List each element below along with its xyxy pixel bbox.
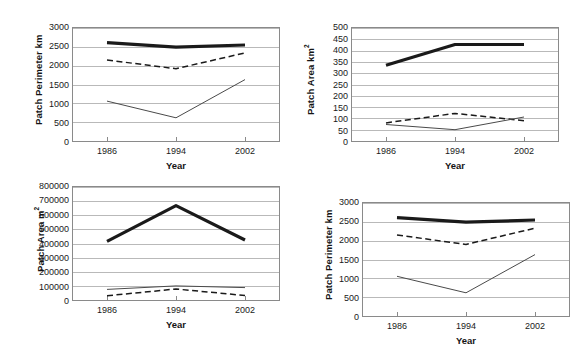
y-tick-label: 1000 [339,274,359,283]
y-tick-label: 800000 [39,182,69,191]
series-line-thick-solid [397,218,535,223]
x-tick-label: 2002 [525,322,545,331]
y-tick-label: 1500 [339,255,359,264]
series-line-thick-solid [386,45,524,66]
y-tick-label: 1000 [49,99,69,108]
x-tick-label: 2002 [514,147,534,156]
plot-area-bottom-left [72,186,280,301]
series-layer [73,187,279,300]
y-tick-label: 100 [333,115,348,124]
y-tick-labels-bottom-left: 0100000200000300000400000500000600000700… [38,186,69,301]
series-line-thick-solid [107,43,245,48]
x-axis-title-bottom-left: Year [166,319,186,330]
x-tick-label: 1994 [166,306,186,315]
x-tick-label: 1986 [376,147,396,156]
y-tick-label: 200000 [39,268,69,277]
series-layer [363,203,569,316]
y-tick-label: 400 [333,46,348,55]
y-tick-label: 0 [64,297,69,306]
y-tick-label: 500000 [39,225,69,234]
y-tick-label: 1500 [49,80,69,89]
y-tick-label: 500 [344,293,359,302]
y-tick-labels-top-left: 050010001500200025003000 [38,27,69,142]
chart-panel-top-left: Patch Perimeter km0500100015002000250030… [0,0,290,174]
y-tick-label: 50 [338,126,348,135]
series-line-dashed [397,228,535,244]
y-tick-label: 2500 [339,217,359,226]
y-tick-label: 300000 [39,253,69,262]
y-tick-label: 3000 [339,198,359,207]
series-line-dashed [107,289,245,296]
series-line-thin-solid [107,80,245,118]
y-tick-label: 0 [64,138,69,147]
x-tick-label: 2002 [235,147,255,156]
x-axis-title-bottom-right: Year [456,335,476,346]
x-axis-title-top-left: Year [166,160,186,171]
y-tick-label: 250 [333,80,348,89]
y-tick-label: 450 [333,34,348,43]
x-tick-label: 1986 [387,322,407,331]
y-tick-label: 2500 [49,42,69,51]
series-line-thick-solid [107,206,245,242]
series-line-dashed [107,53,245,69]
y-tick-label: 700000 [39,196,69,205]
series-line-dashed [386,113,524,123]
x-tick-label: 1986 [97,306,117,315]
y-tick-labels-top-right: 050100150200250300350400450500 [317,27,348,142]
y-tick-label: 2000 [49,61,69,70]
y-tick-label: 600000 [39,210,69,219]
x-tick-label: 1994 [456,322,476,331]
y-tick-label: 2000 [339,236,359,245]
y-tick-label: 0 [354,313,359,322]
plot-area-top-right [351,27,559,142]
y-tick-label: 300 [333,69,348,78]
y-tick-label: 500 [54,118,69,127]
x-tick-label: 1986 [97,147,117,156]
y-axis-title-top-right: Patch Area km2 [303,18,316,142]
series-line-thin-solid [397,255,535,293]
y-tick-label: 200 [333,92,348,101]
y-tick-label: 3000 [49,23,69,32]
y-tick-label: 100000 [39,282,69,291]
plot-area-top-left [72,27,280,142]
chart-panel-bottom-right: Patch Perimeter km0500100015002000250030… [290,175,579,349]
y-tick-label: 400000 [39,239,69,248]
y-tick-label: 150 [333,103,348,112]
y-tick-label: 0 [343,138,348,147]
x-tick-label: 1994 [166,147,186,156]
y-tick-labels-bottom-right: 050010001500200025003000 [328,202,359,317]
x-tick-label: 2002 [235,306,255,315]
plot-area-bottom-right [362,202,570,317]
series-layer [352,28,558,141]
figure-canvas: Patch Perimeter km0500100015002000250030… [0,0,579,349]
x-tick-label: 1994 [445,147,465,156]
chart-panel-bottom-left: Patch Area m2010000020000030000040000050… [0,175,290,349]
x-axis-title-top-right: Year [445,160,465,171]
y-tick-label: 350 [333,57,348,66]
chart-panel-top-right: Patch Area km205010015020025030035040045… [290,0,579,174]
y-tick-label: 500 [333,23,348,32]
series-layer [73,28,279,141]
